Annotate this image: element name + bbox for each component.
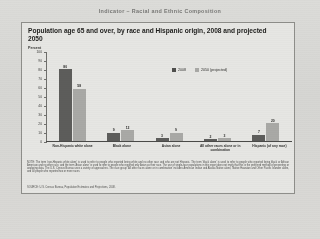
bar-value-label: 9 — [113, 128, 115, 132]
y-tick: 10 — [44, 133, 47, 134]
y-tick-label: 20 — [38, 122, 42, 126]
y-tick: 90 — [44, 61, 47, 62]
bar: 9 — [170, 133, 183, 141]
x-axis-category-label: Non-Hispanic white alone — [48, 144, 97, 160]
y-tick-label: 70 — [38, 77, 42, 81]
bar-group: 720 — [242, 52, 290, 141]
y-tick-label: 80 — [38, 68, 42, 72]
bar-value-label: 2 — [209, 135, 211, 139]
bar-value-label: 7 — [258, 130, 260, 134]
bar: 2 — [204, 139, 217, 141]
chart-title: Population age 65 and over, by race and … — [28, 27, 278, 43]
bar-value-label: 3 — [161, 134, 163, 138]
y-tick-label: 10 — [38, 131, 42, 135]
bar-groups: 80589123923720 — [48, 52, 290, 141]
y-tick: 0 — [44, 142, 47, 143]
x-axis — [46, 141, 292, 142]
y-tick-label: 30 — [38, 113, 42, 117]
y-tick-label: 0 — [40, 140, 42, 144]
x-axis-category-label: Black alone — [97, 144, 146, 160]
y-tick-label: 60 — [38, 86, 42, 90]
bar-group: 39 — [145, 52, 193, 141]
bar: 20 — [266, 123, 279, 141]
running-head: Indicator – Racial and Ethnic Compositio… — [0, 8, 316, 14]
y-tick: 80 — [44, 70, 47, 71]
bar-value-label: 12 — [126, 126, 130, 130]
chart-panel: Population age 65 and over, by race and … — [21, 22, 295, 194]
y-tick: 50 — [44, 97, 47, 98]
chart-notes: NOTE: The term 'non-Hispanic white alone… — [27, 161, 289, 174]
bar-group: 912 — [96, 52, 144, 141]
bar: 3 — [218, 138, 231, 141]
y-tick-label: 40 — [38, 104, 42, 108]
y-tick: 40 — [44, 106, 47, 107]
bar-group: 23 — [193, 52, 241, 141]
bar: 7 — [252, 135, 265, 141]
y-tick-label: 100 — [36, 50, 42, 54]
bar-group: 8058 — [48, 52, 96, 141]
bar: 58 — [73, 89, 86, 141]
bar: 12 — [121, 130, 134, 141]
y-tick: 20 — [44, 124, 47, 125]
bar: 80 — [59, 69, 72, 141]
bar-value-label: 20 — [271, 119, 275, 123]
document-page: Indicator – Racial and Ethnic Compositio… — [0, 0, 316, 208]
plot-area: 0102030405060708090100 80589123923720 — [46, 52, 290, 142]
x-axis-category-label: Asian alone — [146, 144, 195, 160]
y-tick: 70 — [44, 79, 47, 80]
y-tick-label: 90 — [38, 59, 42, 63]
bar-value-label: 3 — [223, 134, 225, 138]
bar-value-label: 80 — [63, 65, 67, 69]
bar-value-label: 9 — [175, 128, 177, 132]
x-axis-labels: Non-Hispanic white aloneBlack aloneAsian… — [48, 144, 294, 160]
x-axis-category-label: All other races alone or in combination — [196, 144, 245, 160]
bar-value-label: 58 — [77, 84, 81, 88]
bar: 9 — [107, 133, 120, 141]
chart-source: SOURCE: U.S. Census Bureau, Population E… — [27, 186, 289, 189]
x-axis-category-label: Hispanic (of any race) — [245, 144, 294, 160]
bar: 3 — [156, 138, 169, 141]
y-tick-label: 50 — [38, 95, 42, 99]
y-tick: 60 — [44, 88, 47, 89]
y-tick: 100 — [44, 52, 47, 53]
y-tick: 30 — [44, 115, 47, 116]
